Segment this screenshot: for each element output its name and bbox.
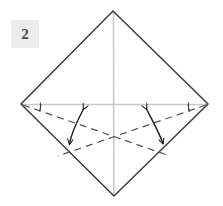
step-number-badge: 2 xyxy=(11,20,39,48)
origami-diagram: 2 xyxy=(0,0,223,206)
right-dashed-fold xyxy=(58,105,206,156)
right-fold-arrow xyxy=(147,109,164,144)
left-fold-arrow xyxy=(70,109,84,144)
center-creases xyxy=(21,11,208,196)
step-number-label: 2 xyxy=(21,27,29,42)
